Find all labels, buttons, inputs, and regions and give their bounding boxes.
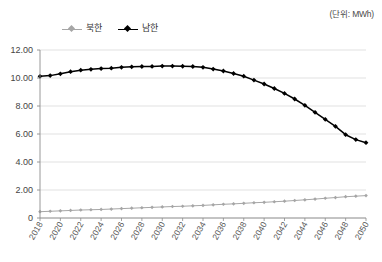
data-point-marker — [170, 64, 175, 69]
x-axis-tick-label: 2038 — [230, 220, 248, 242]
data-point-marker — [160, 64, 165, 69]
data-point-marker — [59, 209, 63, 213]
data-point-marker — [89, 67, 94, 72]
data-point-marker — [150, 206, 154, 210]
data-point-marker — [119, 65, 124, 70]
data-point-marker — [48, 73, 53, 78]
data-point-marker — [140, 206, 144, 210]
y-axis-tick-label: 12.00 — [10, 45, 33, 55]
y-axis-tick-label: 4.00 — [15, 157, 33, 167]
x-axis-tick-label: 2034 — [190, 220, 208, 242]
data-point-marker — [109, 66, 114, 71]
data-point-marker — [344, 195, 348, 199]
x-axis-tick-label: 2046 — [312, 220, 330, 242]
data-point-marker — [79, 208, 83, 212]
data-point-marker — [221, 69, 226, 74]
data-point-marker — [201, 204, 205, 208]
data-point-marker — [89, 208, 93, 212]
data-point-marker — [222, 202, 226, 206]
data-point-marker — [58, 71, 63, 76]
data-point-marker — [364, 194, 368, 198]
data-point-marker — [364, 140, 369, 145]
data-point-marker — [313, 197, 317, 201]
data-point-marker — [120, 207, 124, 211]
y-axis-ticks-group: 02.004.006.008.0010.0012.00 — [10, 45, 40, 223]
data-point-marker — [354, 194, 358, 198]
data-point-marker — [283, 199, 287, 203]
x-axis-tick-label: 2030 — [149, 220, 167, 242]
data-point-marker — [231, 71, 236, 76]
data-point-marker — [48, 209, 52, 213]
chart-svg: 02.004.006.008.0010.0012.00 201820202022… — [0, 0, 382, 262]
x-axis-tick-label: 2050 — [353, 220, 371, 242]
x-axis-tick-label: 2020 — [47, 220, 65, 242]
plot-area: 02.004.006.008.0010.0012.00 201820202022… — [0, 0, 382, 262]
data-point-marker — [139, 64, 144, 69]
data-point-marker — [150, 64, 155, 69]
data-point-marker — [242, 201, 246, 205]
data-point-marker — [69, 209, 73, 213]
x-axis-tick-label: 2044 — [291, 220, 309, 242]
x-axis-tick-label: 2040 — [251, 220, 269, 242]
data-point-marker — [303, 198, 307, 202]
data-point-marker — [323, 196, 327, 200]
data-point-marker — [109, 207, 113, 211]
data-point-marker — [262, 200, 266, 204]
data-point-marker — [129, 64, 134, 69]
data-point-marker — [191, 204, 195, 208]
data-point-marker — [353, 137, 358, 142]
data-point-marker — [78, 68, 83, 73]
x-axis-tick-label: 2042 — [271, 220, 289, 242]
data-point-marker — [272, 200, 276, 204]
x-axis-tick-label: 2048 — [332, 220, 350, 242]
data-point-marker — [252, 78, 257, 83]
x-axis-tick-label: 2022 — [67, 220, 85, 242]
data-point-marker — [171, 205, 175, 209]
y-axis-tick-label: 8.00 — [15, 101, 33, 111]
data-point-marker — [211, 203, 215, 207]
data-point-marker — [334, 196, 338, 200]
data-point-marker — [181, 204, 185, 208]
data-point-marker — [211, 67, 216, 72]
gridlines-group — [40, 50, 366, 218]
data-point-marker — [272, 86, 277, 91]
data-point-marker — [232, 202, 236, 206]
data-point-marker — [293, 199, 297, 203]
y-axis-tick-label: 10.00 — [10, 73, 33, 83]
data-point-marker — [180, 64, 185, 69]
x-axis-tick-label: 2026 — [108, 220, 126, 242]
chart-container: (단위: MWh) 북한 남한 02.004.006.008.0010.0012… — [0, 0, 382, 262]
data-point-marker — [160, 205, 164, 209]
data-series-group — [38, 64, 369, 214]
x-axis-tick-label: 2032 — [169, 220, 187, 242]
x-axis-ticks-group: 2018202020222024202620282030203220342036… — [27, 218, 371, 241]
data-point-marker — [99, 208, 103, 212]
data-point-marker — [99, 66, 104, 71]
x-axis-tick-label: 2036 — [210, 220, 228, 242]
y-axis-tick-label: 2.00 — [15, 185, 33, 195]
data-point-marker — [130, 206, 134, 210]
data-point-marker — [190, 64, 195, 69]
y-axis-tick-label: 6.00 — [15, 129, 33, 139]
x-axis-tick-label: 2028 — [128, 220, 146, 242]
data-point-marker — [68, 69, 73, 74]
x-axis-tick-label: 2024 — [88, 220, 106, 242]
data-point-marker — [262, 82, 267, 87]
y-axis-tick-label: 0 — [28, 213, 33, 223]
data-point-marker — [252, 201, 256, 205]
series-line-남한 — [40, 66, 366, 143]
data-point-marker — [201, 65, 206, 70]
